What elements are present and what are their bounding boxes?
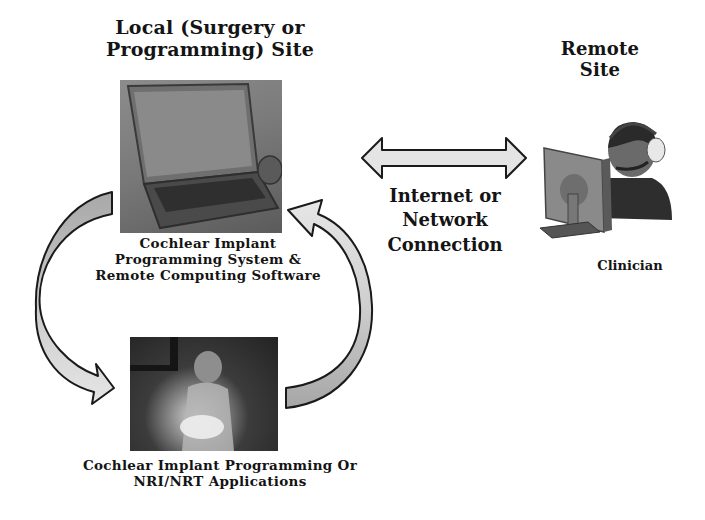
application-caption-line2: NRI/NRT Applications (60, 474, 380, 490)
local-site-title-line2: Programming) Site (90, 38, 330, 60)
application-caption: Cochlear Implant Programming Or NRI/NRT … (60, 458, 380, 490)
curved-arrow-down-icon (0, 190, 120, 410)
double-headed-arrow-icon[interactable] (360, 136, 528, 180)
surgery-photo (130, 337, 278, 451)
laptop-photo (120, 80, 282, 233)
clinician-photo-figure-icon (130, 337, 278, 451)
clinician-icon (540, 108, 680, 238)
local-site-title-line1: Local (Surgery or (90, 16, 330, 38)
connection-label: Internet or Network Connection (370, 184, 520, 257)
connection-label-line1: Internet or (370, 184, 520, 208)
connection-label-line2: Network (370, 208, 520, 232)
connection-label-line3: Connection (370, 233, 520, 257)
laptop-icon (120, 80, 282, 233)
application-caption-line1: Cochlear Implant Programming Or (60, 458, 380, 474)
remote-site-title: Remote Site (540, 38, 660, 80)
clinician-label: Clinician (580, 258, 680, 273)
remote-site-title-line1: Remote (540, 38, 660, 59)
local-site-title: Local (Surgery or Programming) Site (90, 16, 330, 61)
remote-site-title-line2: Site (540, 59, 660, 80)
